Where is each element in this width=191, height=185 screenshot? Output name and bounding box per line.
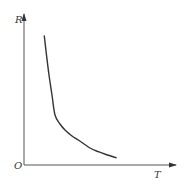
y-axis-label: R — [14, 14, 23, 25]
r-vs-t-curve — [44, 36, 116, 158]
origin-label: O — [14, 160, 22, 171]
chart: R T O — [0, 0, 191, 185]
x-axis-label: T — [154, 169, 162, 180]
